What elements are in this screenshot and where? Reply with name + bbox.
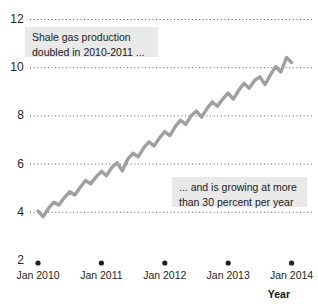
y-tick-label-4: 4	[2, 205, 24, 219]
callout-production-doubled-line-2: doubled in 2010-2011 ...	[32, 45, 151, 60]
y-tick-label-2: 2	[2, 253, 24, 267]
y-tick-label-10: 10	[2, 60, 24, 74]
y-tick-label-8: 8	[2, 108, 24, 122]
x-tick-dot-jan-2012	[162, 260, 167, 265]
x-tick-label-jan-2013: Jan 2013	[196, 269, 260, 281]
callout-production-doubled-line-1: Shale gas production	[32, 30, 151, 45]
x-tick-label-jan-2011: Jan 2011	[69, 269, 133, 281]
x-tick-dot-jan-2011	[99, 260, 104, 265]
y-tick-label-6: 6	[2, 157, 24, 171]
x-tick-label-jan-2014: Jan 2014	[260, 269, 318, 281]
callout-growth-rate-line-1: ... and is growing at more	[179, 180, 300, 195]
x-tick-dot-jan-2014	[289, 260, 294, 265]
x-axis-dot-markers	[35, 260, 294, 265]
x-tick-label-jan-2010: Jan 2010	[6, 269, 70, 281]
y-tick-label-12: 12	[2, 12, 24, 26]
callout-production-doubled: Shale gas productiondoubled in 2010-2011…	[25, 27, 158, 57]
x-tick-dot-jan-2010	[35, 260, 40, 265]
x-tick-label-jan-2012: Jan 2012	[133, 269, 197, 281]
shale-gas-production-chart: 12108642 Jan 2010Jan 2011Jan 2012Jan 201…	[0, 0, 318, 306]
x-tick-dot-jan-2013	[226, 260, 231, 265]
callout-growth-rate: ... and is growing at morethan 30 percen…	[172, 177, 307, 207]
callout-growth-rate-line-2: than 30 percent per year	[179, 195, 300, 210]
x-axis-title: Year	[230, 288, 290, 300]
